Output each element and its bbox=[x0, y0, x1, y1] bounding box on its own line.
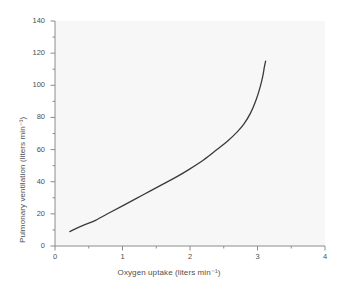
x-tick-label: 0 bbox=[45, 252, 65, 261]
x-tick-label: 4 bbox=[315, 252, 335, 261]
caption-artifact-text bbox=[8, 285, 330, 289]
figure-container: 020406080100120140 01234 Oxygen uptake (… bbox=[0, 0, 338, 291]
oxygen-uptake-ventilation-chart bbox=[0, 0, 338, 291]
plot-area-background bbox=[55, 21, 325, 246]
x-tick-label: 3 bbox=[248, 252, 268, 261]
y-tick-label: 120 bbox=[19, 48, 45, 57]
x-axis-title: Oxygen uptake (liters min⁻¹) bbox=[0, 268, 338, 277]
y-axis-title: Pulmonary ventilation (liters min⁻¹) bbox=[18, 117, 27, 243]
y-tick-label: 100 bbox=[19, 80, 45, 89]
cropped-caption-artifact bbox=[8, 285, 330, 289]
x-tick-label: 2 bbox=[180, 252, 200, 261]
x-tick-label: 1 bbox=[113, 252, 133, 261]
y-tick-label: 140 bbox=[19, 16, 45, 25]
